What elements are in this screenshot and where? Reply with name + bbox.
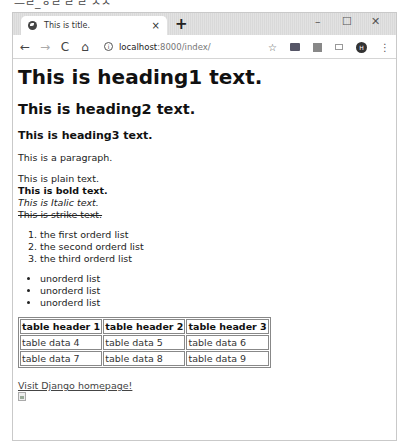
heading1: This is heading1 text.	[18, 65, 391, 89]
strike-text: This is strike text.	[18, 209, 391, 221]
ordered-list-item: the third orderd list	[40, 253, 391, 265]
cropped-caption: —ㄹ_ㅎㄹ ㄹ ㄹ ㅅㅅ	[14, 0, 111, 9]
table-header: table header 3	[186, 319, 268, 334]
browser-window: This is title. × + – ☐ ✕ ← → C ⌂ i local…	[12, 12, 397, 441]
heading2: This is heading2 text.	[18, 101, 391, 117]
table-header: table header 2	[103, 319, 185, 334]
browser-toolbar: ← → C ⌂ i localhost :8000/index/ ☆ H ⋮	[13, 35, 396, 59]
data-table: table header 1 table header 2 table head…	[18, 317, 271, 368]
ordered-list: the first orderd list the second orderd …	[18, 229, 391, 265]
back-button[interactable]: ←	[20, 40, 30, 54]
ordered-list-item: the second orderd list	[40, 241, 391, 253]
table-row: table data 4 table data 5 table data 6	[20, 335, 269, 350]
address-bar[interactable]: i localhost :8000/index/	[104, 42, 211, 52]
table-cell: table data 6	[186, 335, 268, 350]
broken-image-icon	[18, 392, 26, 401]
info-icon[interactable]: i	[104, 42, 113, 51]
cast-icon[interactable]	[335, 44, 343, 50]
unordered-list-item: unorderd list	[40, 297, 391, 309]
maximize-button[interactable]: ☐	[342, 15, 352, 28]
url-path: :8000/index/	[157, 42, 210, 52]
text-styles: This is plain text. This is bold text. T…	[18, 173, 391, 221]
menu-icon[interactable]: ⋮	[380, 42, 390, 53]
profile-avatar[interactable]: H	[356, 42, 367, 53]
table-header: table header 1	[20, 319, 102, 334]
unordered-list: unorderd list unorderd list unorderd lis…	[18, 273, 391, 309]
minimize-button[interactable]: –	[315, 15, 321, 28]
bookmark-star-icon[interactable]: ☆	[268, 42, 277, 53]
django-homepage-link[interactable]: Visit Django homepage!	[18, 380, 391, 391]
toolbar-right: ☆ H ⋮	[255, 35, 390, 59]
heading3: This is heading3 text.	[18, 129, 391, 142]
home-button[interactable]: ⌂	[80, 40, 90, 54]
unordered-list-item: unorderd list	[40, 273, 391, 285]
table-cell: table data 5	[103, 335, 185, 350]
table-cell: table data 8	[103, 351, 185, 366]
table-row: table data 7 table data 8 table data 9	[20, 351, 269, 366]
table-header-row: table header 1 table header 2 table head…	[20, 319, 269, 334]
globe-icon	[28, 21, 37, 30]
forward-button[interactable]: →	[40, 40, 50, 54]
ordered-list-item: the first orderd list	[40, 229, 391, 241]
reload-button[interactable]: C	[60, 40, 70, 54]
bold-text: This is bold text.	[18, 185, 391, 197]
page-content: This is heading1 text. This is heading2 …	[13, 65, 396, 401]
italic-text: This is Italic text.	[18, 197, 391, 209]
tab-active[interactable]: This is title. ×	[21, 16, 167, 35]
paragraph: This is a paragraph.	[18, 152, 391, 164]
tab-title: This is title.	[44, 21, 152, 30]
table-cell: table data 7	[20, 351, 102, 366]
plain-text: This is plain text.	[18, 173, 391, 185]
extension-icon-1[interactable]	[290, 43, 300, 51]
new-tab-button[interactable]: +	[175, 15, 188, 33]
close-window-button[interactable]: ✕	[371, 15, 380, 28]
unordered-list-item: unorderd list	[40, 285, 391, 297]
close-tab-icon[interactable]: ×	[152, 20, 160, 31]
table-cell: table data 9	[186, 351, 268, 366]
extension-icon-2[interactable]	[313, 43, 322, 52]
table-cell: table data 4	[20, 335, 102, 350]
tab-bar: This is title. × + – ☐ ✕	[13, 13, 396, 35]
url-host: localhost	[119, 42, 157, 52]
